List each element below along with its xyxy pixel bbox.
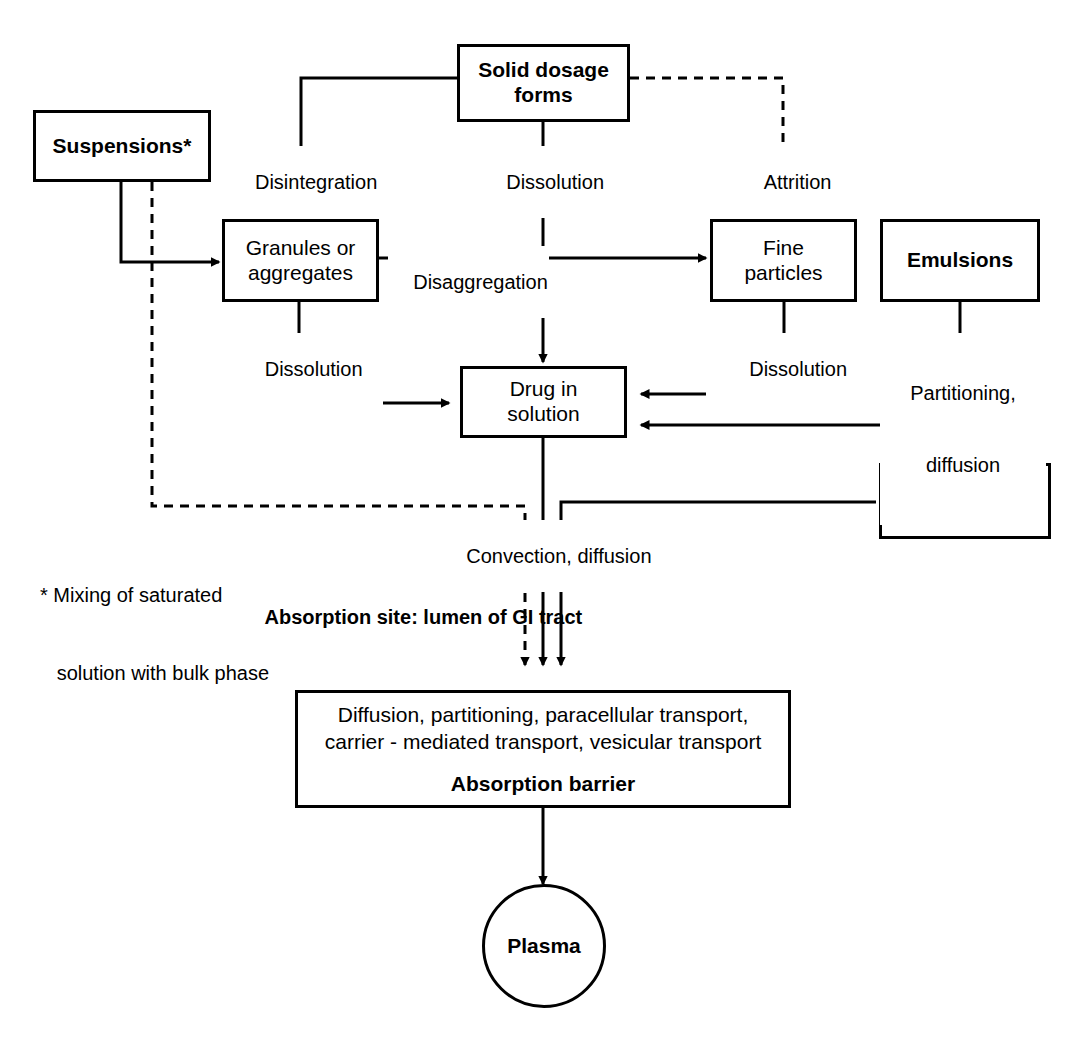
absorption-barrier-line2: carrier - mediated transport, vesicular … (325, 728, 762, 755)
footnote-line2: solution with bulk phase (40, 660, 269, 686)
node-solid-dosage-forms[interactable]: Solid dosage forms (457, 44, 630, 122)
node-plasma-label: Plasma (507, 934, 581, 958)
edge-label-disaggregation: Disaggregation (388, 246, 549, 318)
node-suspensions-label: Suspensions* (42, 134, 202, 159)
node-granules-or-aggregates[interactable]: Granules or aggregates (222, 219, 379, 302)
label-absorption-site: Absorption site: lumen of GI tract (243, 578, 582, 656)
edge-label-disintegration: Disintegration (222, 146, 388, 218)
node-granules-line2: aggregates (231, 261, 370, 286)
edge-label-attrition: Attrition (724, 146, 850, 218)
edge-label-partitioning-diffusion: Partitioning, diffusion (880, 333, 1046, 525)
node-drug-in-solution-line1: Drug in (469, 377, 618, 402)
node-absorption-barrier[interactable]: Diffusion, partitioning, paracellular tr… (295, 690, 791, 808)
node-emulsions-label: Emulsions (889, 248, 1031, 273)
edge-label-dissolution-left: Dissolution (222, 333, 383, 405)
node-solid-dosage-forms-line2: forms (466, 83, 621, 108)
node-fine-particles[interactable]: Fine particles (710, 219, 857, 302)
footnote-suspensions: * Mixing of saturated solution with bulk… (40, 530, 269, 738)
node-plasma[interactable]: Plasma (482, 884, 606, 1008)
edge-suspensions-to-granules (121, 182, 219, 262)
node-emulsions[interactable]: Emulsions (880, 219, 1040, 302)
absorption-barrier-line1: Diffusion, partitioning, paracellular tr… (338, 701, 749, 728)
absorption-barrier-subtitle: Absorption barrier (451, 770, 635, 797)
edge-label-dissolution-top: Dissolution (466, 146, 622, 218)
node-fine-particles-line2: particles (719, 261, 848, 286)
node-granules-line1: Granules or (231, 236, 370, 261)
node-drug-in-solution[interactable]: Drug in solution (460, 366, 627, 438)
edge-label-dissolution-right: Dissolution (706, 333, 868, 405)
flowchart-canvas: Solid dosage forms Suspensions* Granules… (0, 0, 1086, 1042)
node-drug-in-solution-line2: solution (469, 402, 618, 427)
footnote-line1: * Mixing of saturated (40, 582, 269, 608)
node-fine-particles-line1: Fine (719, 236, 848, 261)
node-solid-dosage-forms-line1: Solid dosage (466, 58, 621, 83)
node-suspensions[interactable]: Suspensions* (33, 110, 211, 182)
